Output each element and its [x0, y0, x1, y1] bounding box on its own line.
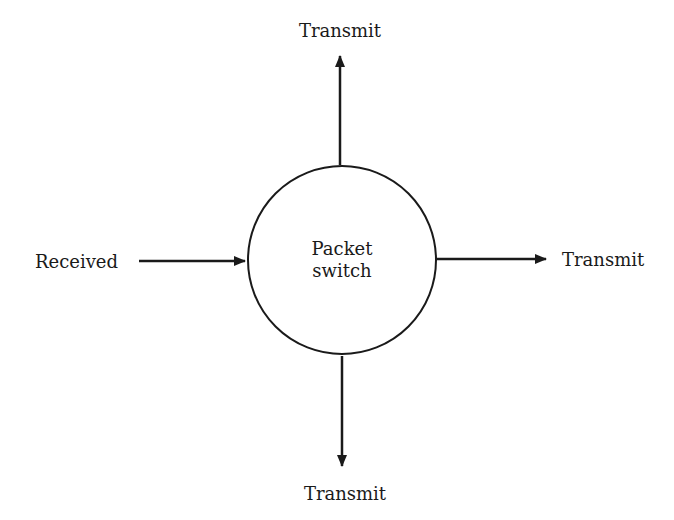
packet-switch-diagram: Packet switch Received Transmit Transmit…	[0, 0, 674, 520]
node-label-line1: Packet	[312, 238, 374, 259]
transmit-bottom-label: Transmit	[304, 483, 387, 504]
received-label: Received	[35, 251, 118, 272]
node-label-line2: switch	[312, 260, 372, 281]
transmit-top-label: Transmit	[299, 20, 382, 41]
transmit-right-label: Transmit	[562, 249, 645, 270]
